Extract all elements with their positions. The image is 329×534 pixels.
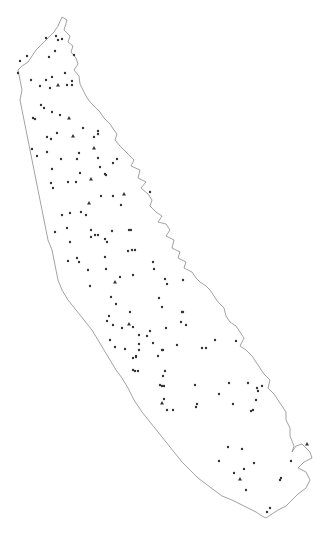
- circle-marker-icon: [138, 334, 140, 336]
- circle-marker-icon: [79, 172, 81, 174]
- circle-marker-icon: [45, 79, 47, 81]
- circle-marker-icon: [233, 472, 235, 474]
- circle-marker-icon: [78, 152, 80, 154]
- circle-marker-icon: [48, 56, 50, 58]
- circle-marker-icon: [214, 339, 216, 341]
- circle-marker-icon: [67, 260, 69, 262]
- circle-marker-icon: [51, 111, 53, 113]
- circle-marker-icon: [69, 241, 71, 243]
- circle-marker-icon: [46, 151, 48, 153]
- circle-marker-icon: [146, 335, 148, 337]
- circle-marker-icon: [51, 168, 53, 170]
- circle-marker-icon: [61, 214, 63, 216]
- circle-marker-icon: [158, 297, 160, 299]
- circle-marker-icon: [111, 230, 113, 232]
- circle-marker-icon: [71, 80, 73, 82]
- circle-marker-icon: [127, 250, 129, 252]
- circle-marker-icon: [108, 315, 110, 317]
- circle-marker-icon: [17, 72, 19, 74]
- circle-marker-icon: [26, 55, 28, 57]
- circle-marker-icon: [112, 195, 114, 197]
- circle-marker-icon: [201, 347, 203, 349]
- circle-marker-icon: [78, 261, 80, 263]
- circle-marker-icon: [97, 130, 99, 132]
- circle-marker-icon: [67, 181, 69, 183]
- circle-marker-icon: [228, 382, 230, 384]
- circle-marker-icon: [205, 347, 207, 349]
- circle-marker-icon: [132, 274, 134, 276]
- circle-marker-icon: [132, 357, 134, 359]
- circle-marker-icon: [100, 195, 102, 197]
- circle-marker-icon: [87, 269, 89, 271]
- circle-marker-icon: [243, 468, 245, 470]
- circle-marker-icon: [153, 268, 155, 270]
- circle-marker-icon: [166, 409, 168, 411]
- circle-marker-icon: [149, 330, 151, 332]
- circle-marker-icon: [54, 231, 56, 233]
- circle-marker-icon: [132, 326, 134, 328]
- circle-marker-icon: [119, 276, 121, 278]
- circle-marker-icon: [75, 181, 77, 183]
- circle-marker-icon: [195, 406, 197, 408]
- circle-marker-icon: [250, 410, 252, 412]
- circle-marker-icon: [94, 234, 96, 236]
- circle-marker-icon: [106, 320, 108, 322]
- circle-marker-icon: [90, 236, 92, 238]
- circle-marker-icon: [138, 349, 140, 351]
- circle-marker-icon: [105, 268, 107, 270]
- circle-marker-icon: [176, 344, 178, 346]
- circle-marker-icon: [110, 296, 112, 298]
- circle-marker-icon: [43, 107, 45, 109]
- circle-marker-icon: [56, 132, 58, 134]
- circle-marker-icon: [80, 211, 82, 213]
- circle-marker-icon: [129, 311, 131, 313]
- circle-marker-icon: [269, 507, 271, 509]
- circle-marker-icon: [93, 136, 95, 138]
- circle-marker-icon: [112, 162, 114, 164]
- circle-marker-icon: [49, 87, 51, 89]
- circle-marker-icon: [245, 489, 247, 491]
- circle-marker-icon: [59, 114, 61, 116]
- circle-marker-icon: [57, 39, 59, 41]
- circle-marker-icon: [163, 398, 165, 400]
- circle-marker-icon: [73, 54, 75, 56]
- circle-marker-icon: [290, 460, 292, 462]
- circle-marker-icon: [257, 390, 259, 392]
- circle-marker-icon: [97, 157, 99, 159]
- circle-marker-icon: [166, 283, 168, 285]
- circle-marker-icon: [130, 229, 132, 231]
- circle-marker-icon: [61, 38, 63, 40]
- circle-marker-icon: [39, 85, 41, 87]
- circle-marker-icon: [131, 249, 133, 251]
- circle-marker-icon: [64, 72, 66, 74]
- circle-marker-icon: [105, 174, 107, 176]
- circle-marker-icon: [46, 136, 48, 138]
- circle-marker-icon: [266, 511, 268, 513]
- circle-marker-icon: [241, 448, 243, 450]
- circle-marker-icon: [120, 204, 122, 206]
- circle-marker-icon: [161, 306, 163, 308]
- circle-marker-icon: [196, 403, 198, 405]
- circle-marker-icon: [114, 346, 116, 348]
- circle-marker-icon: [227, 446, 229, 448]
- circle-marker-icon: [54, 50, 56, 52]
- circle-marker-icon: [152, 261, 154, 263]
- circle-marker-icon: [50, 182, 52, 184]
- circle-marker-icon: [232, 403, 234, 405]
- circle-marker-icon: [109, 339, 111, 341]
- circle-marker-icon: [99, 166, 101, 168]
- circle-marker-icon: [31, 148, 33, 150]
- circle-marker-icon: [162, 375, 164, 377]
- circle-marker-icon: [172, 409, 174, 411]
- circle-marker-icon: [255, 399, 257, 401]
- circle-marker-icon: [218, 393, 220, 395]
- circle-marker-icon: [194, 384, 196, 386]
- circle-marker-icon: [34, 118, 36, 120]
- circle-marker-icon: [157, 355, 159, 357]
- map-background: [0, 0, 329, 534]
- circle-marker-icon: [66, 227, 68, 229]
- circle-marker-icon: [85, 214, 87, 216]
- circle-marker-icon: [185, 324, 187, 326]
- circle-marker-icon: [76, 158, 78, 160]
- circle-marker-icon: [256, 387, 258, 389]
